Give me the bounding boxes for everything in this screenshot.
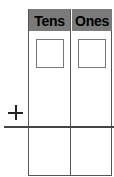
tens-header: Tens <box>29 9 70 31</box>
ones-input-box[interactable] <box>78 39 106 68</box>
header-gap <box>71 9 72 31</box>
plus-icon <box>8 103 24 121</box>
column-divider <box>70 9 71 176</box>
ones-header: Ones <box>72 9 112 31</box>
sum-line <box>4 126 114 128</box>
tens-input-box[interactable] <box>36 39 64 68</box>
